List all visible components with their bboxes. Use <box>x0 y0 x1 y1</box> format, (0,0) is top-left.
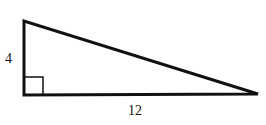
triangle-diagram: 4 12 <box>0 0 266 125</box>
right-triangle <box>24 21 258 95</box>
right-angle-marker <box>24 77 43 95</box>
horizontal-leg-label: 12 <box>128 104 142 118</box>
vertical-leg-label: 4 <box>5 52 12 66</box>
